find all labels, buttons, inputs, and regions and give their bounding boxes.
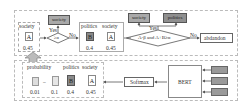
prob-box-1 [32, 77, 39, 86]
decision2-politics-box: politics [163, 13, 187, 23]
softmax-box: Softmax [124, 77, 154, 87]
decision2-society-box: society [128, 13, 150, 23]
decision2-condition: A-β and A+B≥α [138, 35, 170, 41]
decision1-condition: ≥α [54, 35, 59, 41]
middle-politics-value: 0.4 [86, 45, 93, 51]
prob-society-box: A [88, 75, 96, 86]
middle-society-word: society [102, 23, 118, 29]
abdandon-box: abdandon [200, 33, 233, 43]
middle-society-value: 0.45 [106, 45, 116, 51]
middle-society-letter-box: A [107, 32, 115, 41]
left-letter: A [27, 34, 31, 40]
decision1-yes: Yes [49, 27, 57, 33]
decision1-yes-society-box: society [48, 15, 70, 25]
prob-value-4: 0.45 [86, 89, 96, 95]
probability-label: probability [27, 64, 51, 70]
bert-input-1 [211, 66, 228, 74]
prob-value-1: 0.01 [30, 89, 40, 95]
bert-label: BERT [178, 79, 192, 85]
prob-value-3: 0.4 [67, 89, 74, 95]
bert-input-3 [211, 88, 228, 96]
middle-letter-a: A [109, 34, 113, 40]
bert-input-2 [211, 77, 228, 85]
prob-letter-b: B [69, 78, 73, 84]
middle-politics-letter-box: B [86, 32, 94, 41]
bert-box: BERT [168, 65, 202, 98]
left-society-letter-box: A [25, 32, 33, 41]
left-society-value: 0.45 [23, 45, 33, 51]
middle-politics-word: politics [81, 23, 97, 29]
prob-politics-word: politics [63, 64, 79, 70]
prob-politics-box: B [67, 75, 75, 86]
left-society-word: society [19, 23, 35, 29]
decision1-no: No [69, 32, 76, 38]
prob-box-2 [52, 76, 59, 86]
decision2-yes: Yes [149, 25, 157, 31]
prob-letter-a: A [90, 78, 94, 84]
softmax-label: Softmax [130, 79, 149, 85]
prob-ellipsis: – [43, 79, 46, 85]
prob-value-2: 0.1 [51, 89, 58, 95]
prob-society-word: society [82, 64, 98, 70]
middle-letter-b: B [88, 34, 92, 40]
decision2-no: No [190, 32, 197, 38]
abdandon-label: abdandon [204, 35, 225, 41]
